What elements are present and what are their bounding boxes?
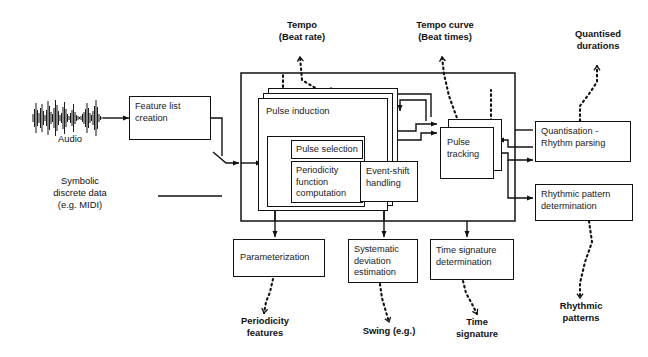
pulse-induction-label: Pulse induction bbox=[266, 105, 330, 117]
time-signature-output-label: Time signature bbox=[438, 316, 516, 340]
dotted-arrow-periodicity-features bbox=[264, 279, 273, 313]
box-feature-list-creation[interactable]: Feature list creation bbox=[129, 96, 211, 140]
dotted-arrow-swing bbox=[380, 284, 389, 322]
tempo-curve-output-label: Tempo curve (Beat times) bbox=[402, 19, 488, 43]
dotted-arrow-rhythmic-patterns bbox=[580, 221, 592, 298]
dotted-arrow-quantised-durations bbox=[580, 66, 597, 126]
box-pulse-tracking[interactable]: Pulse tracking bbox=[440, 127, 494, 179]
audio-label: Audio bbox=[30, 133, 110, 145]
box-systematic-deviation-estimation[interactable]: Systematic deviation estimation bbox=[348, 239, 418, 283]
quantised-durations-output-label: Quantised durations bbox=[558, 28, 638, 52]
line-feature-list-out bbox=[211, 118, 222, 156]
tempo-output-label: Tempo (Beat rate) bbox=[262, 19, 342, 43]
box-time-signature-determination[interactable]: Time signature determination bbox=[430, 239, 514, 280]
arrow-tracking-feedback-2 bbox=[400, 100, 426, 121]
audio-waveform-icon bbox=[32, 100, 102, 136]
rhythmic-patterns-output-label: Rhythmic patterns bbox=[540, 300, 622, 324]
box-quantisation-rhythm-parsing[interactable]: Quantisation - Rhythm parsing bbox=[535, 121, 631, 162]
box-rhythmic-pattern-determination[interactable]: Rhythmic pattern determination bbox=[535, 184, 633, 221]
arrow-container-to-rhythmic-pattern bbox=[508, 160, 533, 198]
box-pulse-selection[interactable]: Pulse selection bbox=[291, 140, 363, 159]
symbolic-data-label: Symbolic discrete data (e.g. MIDI) bbox=[25, 175, 135, 211]
box-periodicity-function-computation[interactable]: Periodicity function computation bbox=[291, 161, 363, 203]
swing-output-label: Swing (e.g.) bbox=[348, 325, 430, 337]
arrow-merge-into-system bbox=[213, 152, 239, 163]
diagram-canvas: Audio Symbolic discrete data (e.g. MIDI)… bbox=[0, 0, 648, 357]
box-event-shift-handling[interactable]: Event-shift handling bbox=[360, 161, 418, 202]
periodicity-features-output-label: Periodicity features bbox=[224, 315, 306, 339]
dotted-arrow-time-signature bbox=[463, 281, 477, 314]
box-parameterization[interactable]: Parameterization bbox=[233, 239, 325, 277]
